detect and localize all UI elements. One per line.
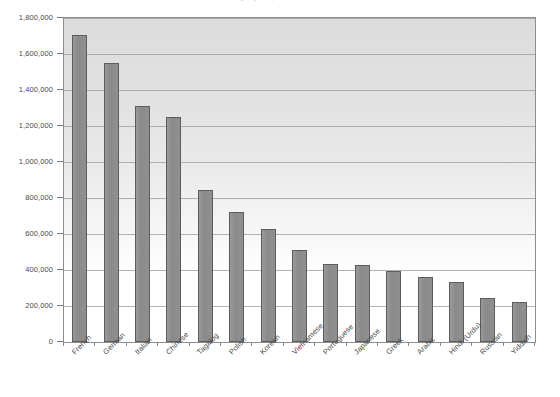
bar [229,212,244,343]
bars-series [64,18,535,342]
y-axis: 0200,000400,000600,000800,0001,000,0001,… [0,0,62,360]
y-tick-label: 1,200,000 [19,121,53,130]
bar [355,265,370,342]
bar [292,250,307,342]
bar [72,35,87,342]
y-tick-label: 200,000 [25,301,53,310]
y-tick-label: 600,000 [25,229,53,238]
y-tick-label: 400,000 [25,265,53,274]
bar [166,117,181,342]
bar [135,106,150,342]
bar-chart-figure: Languages Spoken at Home 0200,000400,000… [0,0,560,397]
bar [104,63,119,342]
bar [418,277,433,342]
y-tick-label: 800,000 [25,193,53,202]
chart-title: Languages Spoken at Home [228,0,488,3]
bar [198,190,213,342]
bar [261,229,276,342]
y-tick-label: 1,600,000 [19,49,53,58]
bar [449,282,464,342]
x-axis-labels: FrenchGermanItalianChineseTagalogPolishK… [0,344,560,397]
plot-area [63,17,536,343]
y-tick-label: 1,400,000 [19,85,53,94]
bar [386,271,401,342]
y-tick-label: 1,000,000 [19,157,53,166]
bar [323,264,338,342]
y-tick-label: 1,800,000 [19,13,53,22]
